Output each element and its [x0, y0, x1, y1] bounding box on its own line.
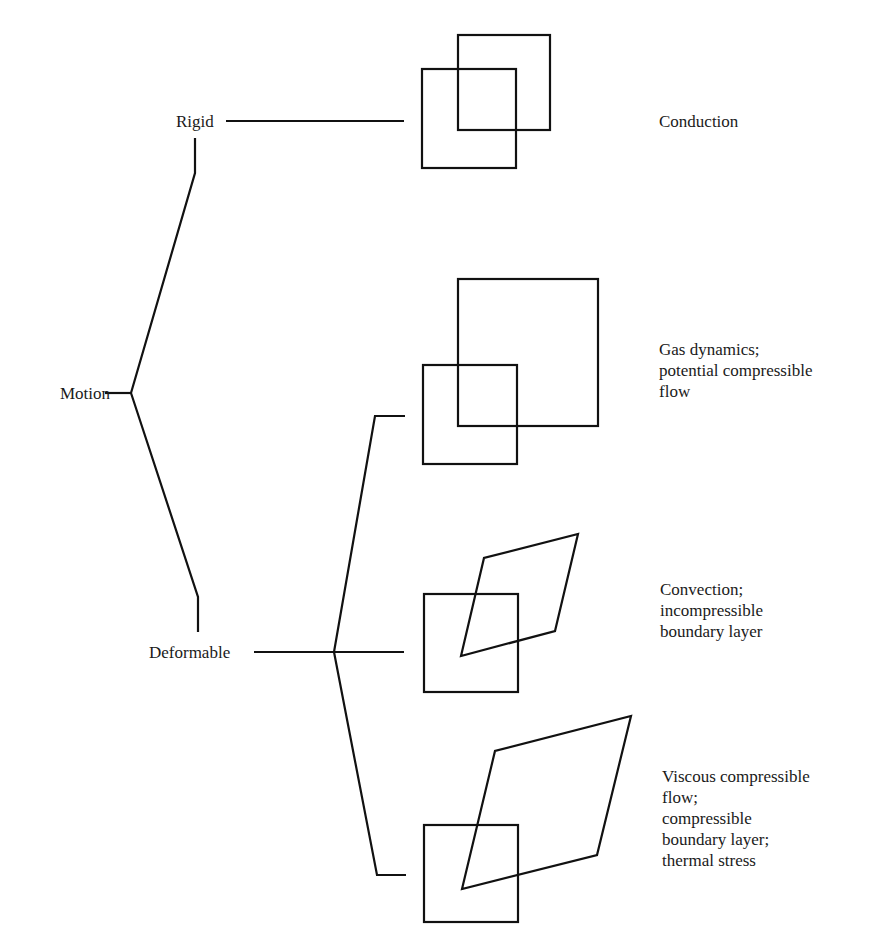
shape-dilation: [423, 279, 598, 464]
shape-rigid-translation: [422, 35, 550, 168]
description-line: potential compressible: [659, 360, 812, 381]
description-convection: Convection; incompressible boundary laye…: [660, 579, 763, 642]
description-line: compressible: [662, 808, 810, 829]
description-line: flow: [659, 381, 812, 402]
description-gas-dynamics: Gas dynamics; potential compressible flo…: [659, 339, 812, 402]
description-line: Convection;: [660, 579, 763, 600]
description-line: boundary layer: [660, 621, 763, 642]
branch-label-rigid: Rigid: [176, 111, 214, 132]
description-line: flow;: [662, 787, 810, 808]
description-line: boundary layer;: [662, 829, 810, 850]
shape-shear: [424, 534, 578, 692]
description-line: Gas dynamics;: [659, 339, 812, 360]
description-line: incompressible: [660, 600, 763, 621]
description-viscous-compressible: Viscous compressible flow; compressible …: [662, 766, 810, 871]
description-line: Conduction: [659, 111, 738, 132]
deformable-connector: [254, 416, 406, 875]
description-line: thermal stress: [662, 850, 810, 871]
description-conduction: Conduction: [659, 111, 738, 132]
shape-shear-dilation: [424, 716, 631, 922]
description-line: Viscous compressible: [662, 766, 810, 787]
motion-connector: [105, 138, 198, 632]
branch-label-deformable: Deformable: [149, 642, 230, 663]
root-label-motion: Motion: [60, 383, 110, 404]
